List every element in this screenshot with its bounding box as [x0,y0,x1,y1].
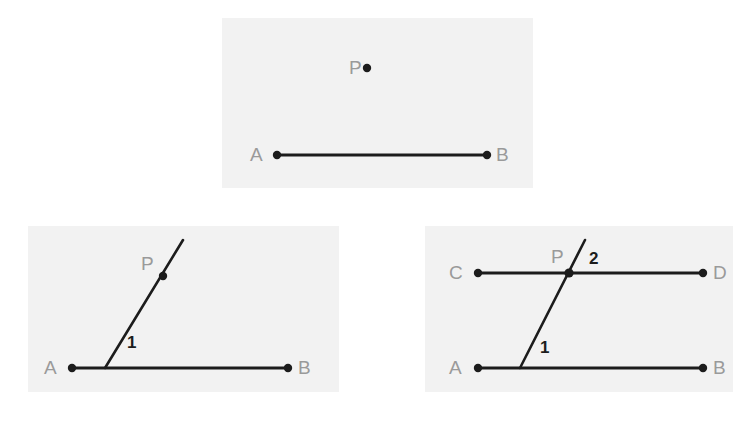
point-d-label: D [713,263,727,282]
point-c-dot [474,269,482,277]
point-a-dot [68,364,76,372]
point-a-label: A [449,358,462,377]
point-d-dot [699,269,707,277]
point-p-label: P [141,254,154,273]
angle-1-label: 1 [127,334,136,351]
point-b-label: B [298,358,311,377]
panel-parallel: C D P A B 1 2 [425,226,733,392]
panel-given-canvas [222,18,533,188]
point-a-dot [474,364,482,372]
point-b-dot [284,364,292,372]
point-p-dot [564,268,573,277]
point-b-dot [699,364,707,372]
point-a-label: A [250,145,263,164]
geometry-figure: P A B P A B 1 [0,0,755,423]
point-a-label: A [44,358,57,377]
point-a-dot [273,151,281,159]
panel-given: P A B [222,18,533,188]
point-c-label: C [449,263,463,282]
panel-ray-canvas [28,226,339,392]
point-p-dot [159,272,167,280]
panel-ray: P A B 1 [28,226,339,392]
point-b-dot [483,151,491,159]
point-p-label: P [551,247,564,266]
point-p-dot [363,64,371,72]
panel-parallel-canvas [425,226,733,392]
point-b-label: B [713,358,726,377]
angle-1-label: 1 [540,339,549,356]
point-b-label: B [496,145,509,164]
point-p-label: P [349,58,362,77]
angle-2-label: 2 [589,250,598,267]
